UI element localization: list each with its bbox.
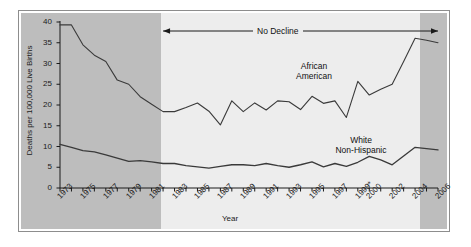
chart-plot-svg: [0, 0, 471, 247]
y-tick-label: 20: [32, 101, 52, 109]
series-label-white-non-hispanic-line2: Non-Hispanic: [310, 145, 412, 155]
tick-marks-group: [57, 22, 439, 192]
no-decline-arrow-head-right: [431, 28, 438, 34]
series-label-african-american: African American: [272, 61, 356, 81]
y-tick-label: 35: [32, 39, 52, 47]
y-tick-label: 30: [32, 60, 52, 68]
series-label-white-non-hispanic: White Non-Hispanic: [310, 135, 412, 155]
y-tick-label: 40: [32, 18, 52, 26]
series-line-african-american: [60, 25, 438, 125]
no-decline-annotation-label: No Decline: [253, 26, 303, 36]
chart-figure: Deaths per 100,000 Live Births Year 0510…: [0, 0, 471, 247]
x-axis-title: Year: [170, 214, 290, 223]
y-tick-label: 5: [32, 163, 52, 171]
y-tick-label: 10: [32, 143, 52, 151]
series-label-african-american-line2: American: [272, 71, 356, 81]
y-tick-label: 25: [32, 80, 52, 88]
series-label-white-non-hispanic-line1: White: [310, 135, 412, 145]
y-tick-label: 15: [32, 122, 52, 130]
axes-group: [60, 21, 438, 188]
no-decline-arrow-head-left: [163, 28, 170, 34]
series-label-african-american-line1: African: [272, 61, 356, 71]
y-tick-label: 0: [32, 184, 52, 192]
